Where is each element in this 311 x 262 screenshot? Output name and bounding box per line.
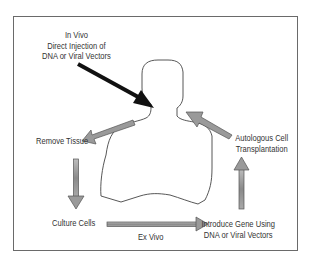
autologous-line-1: Autologous Cell [230, 133, 293, 144]
introduce-gene-label: Introduce Gene Using DNA or Viral Vector… [196, 219, 280, 240]
autologous-transplantation-label: Autologous Cell Transplantation [230, 133, 293, 154]
culture-cells-label: Culture Cells [52, 218, 95, 229]
in-vivo-line-1: In Vivo [28, 30, 125, 41]
gene-therapy-diagram: In Vivo Direct Injection of DNA or Viral… [0, 0, 311, 262]
introduce-gene-line-1: Introduce Gene Using [196, 219, 280, 230]
arrow-to-body [186, 112, 232, 139]
ex-vivo-arrow [107, 217, 208, 231]
human-body-outline [101, 60, 212, 204]
ex-vivo-label: Ex Vivo [138, 232, 164, 243]
in-vivo-label: In Vivo Direct Injection of DNA or Viral… [28, 30, 125, 62]
in-vivo-line-3: DNA or Viral Vectors [28, 51, 125, 62]
remove-tissue-label: Remove Tissue [36, 136, 88, 147]
in-vivo-line-2: Direct Injection of [28, 41, 125, 52]
arrow-to-culture-cells [68, 159, 84, 209]
arrow-to-remove-tissue [82, 120, 135, 144]
introduce-gene-line-2: DNA or Viral Vectors [196, 230, 280, 241]
autologous-line-2: Transplantation [230, 144, 293, 155]
arrow-to-autologous-transplantation [234, 157, 249, 209]
